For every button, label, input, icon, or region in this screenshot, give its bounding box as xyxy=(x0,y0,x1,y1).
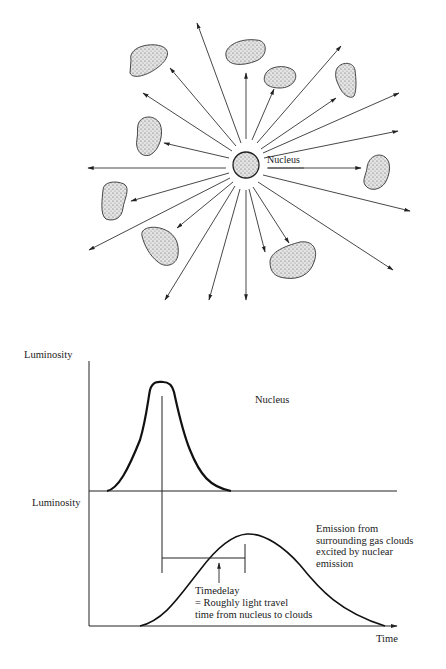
gas-cloud xyxy=(102,182,127,220)
upper-y-axis-label: Luminosity xyxy=(24,349,72,361)
lower-y-axis-label: Luminosity xyxy=(32,497,80,509)
lower-curve-label-line: surrounding gas clouds xyxy=(316,535,413,547)
lower-curve-label: Emission from surrounding gas clouds exc… xyxy=(316,523,413,569)
time-delay-annotation-line: = Roughly light travel xyxy=(195,597,312,609)
gas-cloud xyxy=(226,40,265,65)
nucleus-luminosity-curve xyxy=(107,382,231,491)
nucleus-label: Nucleus xyxy=(267,154,300,166)
upper-curve-label: Nucleus xyxy=(255,394,289,406)
time-delay-annotation: Timedelay = Roughly light travel time fr… xyxy=(195,585,312,621)
gas-cloud xyxy=(270,242,316,279)
time-delay-annotation-line: Timedelay xyxy=(195,585,312,597)
gas-cloud xyxy=(364,155,390,189)
gas-cloud xyxy=(130,45,168,77)
gas-cloud xyxy=(142,227,179,265)
nucleus-circle xyxy=(233,152,259,178)
gas-cloud xyxy=(264,67,296,88)
gas-cloud xyxy=(137,117,162,156)
gas-cloud xyxy=(336,63,356,97)
time-axis-label: Time xyxy=(376,633,398,645)
time-delay-annotation-line: time from nucleus to clouds xyxy=(195,609,312,621)
lower-curve-label-line: excited by nuclear xyxy=(316,546,413,558)
lower-curve-label-line: Emission from xyxy=(316,523,413,535)
lower-curve-label-line: emission xyxy=(316,558,413,570)
